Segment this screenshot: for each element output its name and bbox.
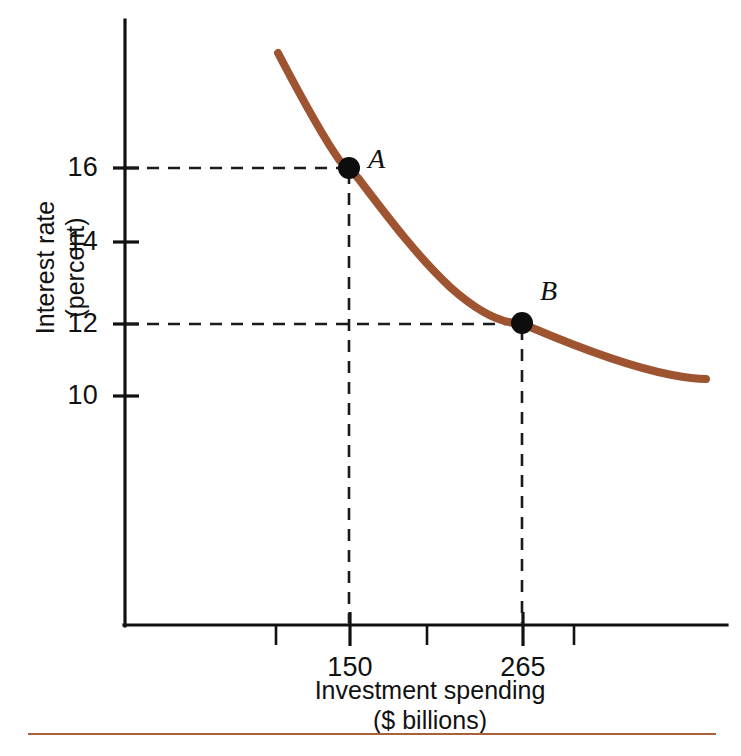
y-axis-title: Interest rate (percent) <box>31 138 90 398</box>
investment-demand-chart: 16 14 12 10 150 265 A B Interest rate (p… <box>0 0 741 756</box>
chart-plot-area <box>0 0 741 756</box>
bottom-divider-rule <box>28 733 716 735</box>
data-point-b <box>511 312 533 334</box>
x-axis-title-line-2: ($ billions) <box>120 706 740 736</box>
data-point-a <box>338 157 360 179</box>
investment-demand-curve <box>278 53 706 379</box>
point-b-label: B <box>540 275 557 307</box>
x-axis-title-line-1: Investment spending <box>120 676 740 706</box>
y-axis-title-line-2: (percent) <box>60 138 90 398</box>
point-a-label: A <box>368 143 385 175</box>
x-axis-title: Investment spending ($ billions) <box>120 676 740 735</box>
y-axis-title-line-1: Interest rate <box>31 138 61 398</box>
